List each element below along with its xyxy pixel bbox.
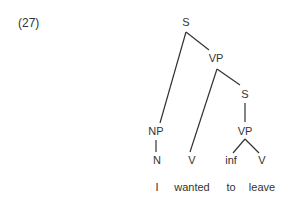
tree-edges — [0, 0, 285, 203]
word-wanted: wanted — [174, 181, 209, 193]
edge-vp2-v — [245, 139, 259, 153]
word-i: I — [155, 181, 158, 193]
node-v: V — [188, 154, 195, 166]
edge-s-vp — [186, 32, 209, 50]
node-v-embedded: V — [258, 154, 265, 166]
word-to: to — [226, 181, 235, 193]
node-s-embedded: S — [241, 88, 248, 100]
edge-s-np — [160, 32, 186, 123]
node-np: NP — [148, 125, 163, 137]
edge-vp-s — [217, 69, 240, 85]
edge-vp-v — [190, 69, 217, 152]
node-n: N — [153, 154, 161, 166]
edge-vp2-inf — [233, 139, 245, 153]
node-vp: VP — [209, 52, 224, 64]
node-inf: inf — [225, 154, 237, 166]
node-vp-embedded: VP — [238, 125, 253, 137]
node-s: S — [182, 16, 189, 28]
word-leave: leave — [249, 181, 275, 193]
